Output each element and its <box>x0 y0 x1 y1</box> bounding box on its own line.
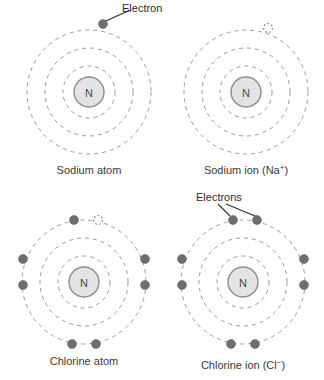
nucleus-label: N <box>239 277 247 289</box>
electron-dot <box>178 255 187 264</box>
caption-tail: ) <box>284 164 288 176</box>
caption-tail: ) <box>281 359 285 371</box>
panel-caption: Chlorine atom <box>50 355 118 367</box>
electron-dot <box>178 281 187 290</box>
bohr-model-diagram: N Electron Sodium atom N Sodium ion (Na+… <box>0 0 324 380</box>
caption-main: Sodium ion (Na <box>204 164 281 176</box>
panel-caption: Chlorine ion (Cl−) <box>201 358 285 371</box>
electron-dot <box>300 255 309 264</box>
panel-sodium-ion: N Sodium ion (Na+) <box>184 24 308 177</box>
electrons-callout-leader-left <box>218 204 230 216</box>
panel-caption: Sodium atom <box>57 164 122 176</box>
electrons-callout-label: Electrons <box>196 191 242 203</box>
nucleus-label: N <box>85 87 93 99</box>
electron-vacancy <box>264 24 273 33</box>
electrons-callout-leader-right <box>226 204 255 216</box>
electron-dot <box>68 340 77 349</box>
electron-dot <box>19 255 28 264</box>
electron-dot <box>253 216 262 225</box>
electron-dot <box>251 340 260 349</box>
caption-main: Sodium atom <box>57 164 122 176</box>
caption-main: Chlorine atom <box>50 355 118 367</box>
caption-main: Chlorine ion (Cl <box>201 359 277 371</box>
panel-chlorine-atom: N Chlorine atom <box>19 216 150 368</box>
electron-dot <box>141 255 150 264</box>
electron-dot <box>70 216 79 225</box>
electron-dot <box>300 281 309 290</box>
electron-dot <box>141 281 150 290</box>
electron-dot <box>227 340 236 349</box>
electron-callout-label: Electron <box>122 2 162 14</box>
diagram-canvas: N Electron Sodium atom N Sodium ion (Na+… <box>0 0 324 380</box>
panel-sodium-atom: N Electron Sodium atom <box>27 2 162 176</box>
electron-dot <box>19 281 28 290</box>
electron-dot <box>99 20 108 29</box>
electron-dot <box>229 216 238 225</box>
panel-chlorine-ion: N Electrons Chlorine ion (Cl−) <box>178 191 309 371</box>
electron-dot <box>92 340 101 349</box>
electron-vacancy <box>94 216 103 225</box>
panel-caption: Sodium ion (Na+) <box>204 163 288 176</box>
nucleus-label: N <box>80 277 88 289</box>
nucleus-label: N <box>242 87 250 99</box>
